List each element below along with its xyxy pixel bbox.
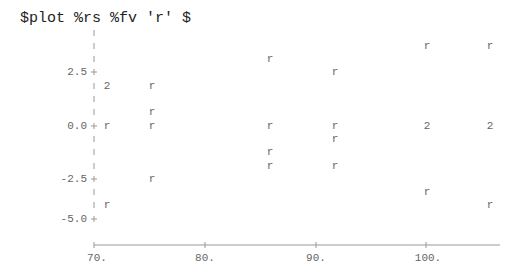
x-tick-label: 80.	[195, 252, 215, 264]
data-point-marker: r	[149, 120, 156, 132]
data-point-marker: r	[332, 160, 339, 172]
y-tick-label: 2.5	[27, 66, 87, 78]
x-tick-label: 90.	[306, 252, 326, 264]
data-point-marker: r	[267, 160, 274, 172]
y-tick-label: 0.0	[27, 120, 87, 132]
x-tick-label: 100.	[415, 252, 441, 264]
data-point-marker: r	[149, 80, 156, 92]
y-tick-label: -5.0	[27, 213, 87, 225]
data-point-marker: r	[424, 186, 431, 198]
x-tick-label: 70.	[87, 252, 107, 264]
data-point-marker: r	[104, 199, 111, 211]
data-point-marker: 2	[487, 120, 494, 132]
axes	[0, 0, 517, 278]
data-point-marker: r	[487, 199, 494, 211]
data-point-marker: r	[332, 66, 339, 78]
data-point-marker: 2	[424, 120, 431, 132]
data-point-marker: r	[487, 40, 494, 52]
data-point-marker: r	[267, 53, 274, 65]
data-point-marker: r	[149, 106, 156, 118]
data-point-marker: r	[267, 120, 274, 132]
y-tick-label: -2.5	[27, 173, 87, 185]
data-point-marker: r	[104, 120, 111, 132]
data-point-marker: r	[332, 120, 339, 132]
data-point-marker: r	[267, 146, 274, 158]
data-point-marker: r	[149, 173, 156, 185]
data-point-marker: r	[332, 133, 339, 145]
data-point-marker: 2	[104, 80, 111, 92]
data-point-marker: r	[424, 40, 431, 52]
